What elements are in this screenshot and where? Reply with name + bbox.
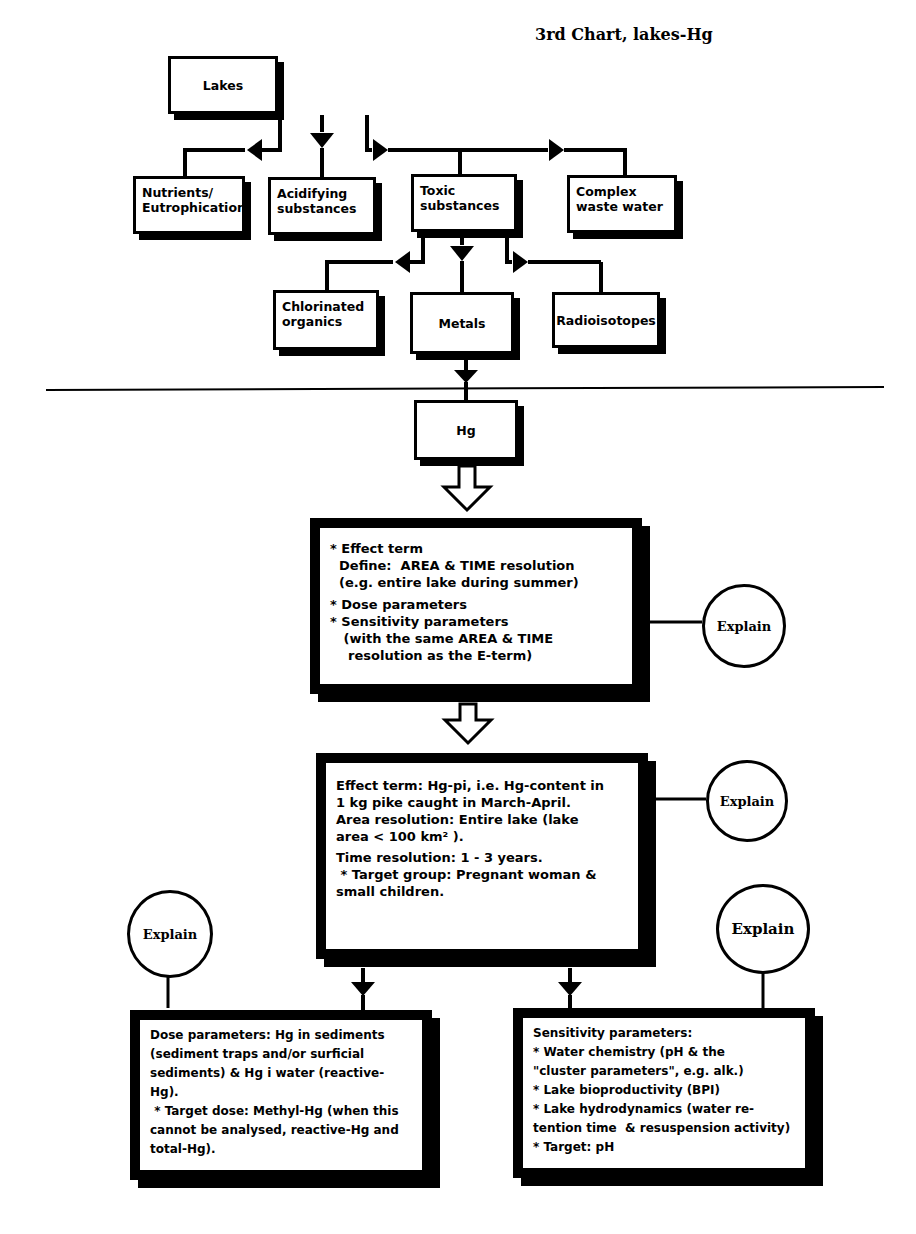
define-line: * Sensitivity parameters [330, 613, 622, 630]
node-metals[interactable]: Metals [410, 292, 514, 354]
node-hg[interactable]: Hg [414, 400, 518, 460]
dose-line: Hg). [150, 1083, 412, 1102]
explain-label: Explain [732, 920, 795, 938]
explain-label: Explain [143, 927, 198, 942]
effect-line: Time resolution: 1 - 3 years. [336, 849, 628, 866]
define-line: (with the same AREA & TIME [330, 630, 622, 647]
node-complex-waste-water[interactable]: Complex waste water [567, 175, 677, 233]
node-lakes[interactable]: Lakes [168, 56, 278, 114]
sensitivity-line: tention time & resuspension activity) [533, 1119, 795, 1138]
explain-button-effect[interactable]: Explain [706, 760, 788, 842]
node-label: Toxic substances [420, 183, 499, 213]
node-nutrients[interactable]: Nutrients/ Eutrophication [133, 176, 245, 234]
sensitivity-line: * Water chemistry (pH & the [533, 1043, 795, 1062]
dose-line: (sediment traps and/or surficial [150, 1045, 412, 1064]
effect-line: area < 100 km² ). [336, 828, 628, 845]
effect-line: 1 kg pike caught in March-April. [336, 794, 628, 811]
node-label: Metals [438, 316, 485, 331]
node-label: Hg [456, 423, 475, 438]
dose-line: sediments) & Hg i water (reactive- [150, 1064, 412, 1083]
define-box: * Effect term Define: AREA & TIME resolu… [310, 518, 642, 694]
define-line: * Dose parameters [330, 596, 622, 613]
node-chlorinated-organics[interactable]: Chlorinated organics [273, 290, 379, 350]
dose-line: total-Hg). [150, 1140, 412, 1159]
explain-button-dose[interactable]: Explain [127, 890, 213, 978]
define-line: resolution as the E-term) [330, 647, 622, 664]
sensitivity-line: * Target: pH [533, 1138, 795, 1157]
explain-label: Explain [717, 619, 772, 634]
define-line: Define: AREA & TIME resolution [330, 557, 622, 574]
node-label: Nutrients/ Eutrophication [142, 185, 246, 215]
node-label: Chlorinated organics [282, 299, 364, 329]
node-label: Complex waste water [576, 184, 663, 214]
sensitivity-line: "cluster parameters", e.g. alk.) [533, 1062, 795, 1081]
explain-button-sensitivity[interactable]: Explain [716, 884, 810, 974]
effect-line: Area resolution: Entire lake (lake [336, 811, 628, 828]
node-label: Acidifying substances [277, 186, 356, 216]
node-label: Radioisotopes [556, 313, 656, 328]
dose-line: cannot be analysed, reactive-Hg and [150, 1121, 412, 1140]
explain-label: Explain [720, 794, 775, 809]
explain-button-define[interactable]: Explain [702, 584, 786, 668]
sensitivity-line: * Lake bioproductivity (BPI) [533, 1081, 795, 1100]
define-line: * Effect term [330, 540, 622, 557]
sensitivity-parameters-box: Sensitivity parameters: * Water chemistr… [513, 1008, 815, 1178]
dose-parameters-box: Dose parameters: Hg in sediments (sedime… [130, 1010, 432, 1180]
effect-line: Effect term: Hg-pi, i.e. Hg-content in [336, 777, 628, 794]
define-line: (e.g. entire lake during summer) [330, 574, 622, 591]
effect-line: * Target group: Pregnant woman & [336, 866, 628, 883]
sensitivity-line: * Lake hydrodynamics (water re- [533, 1100, 795, 1119]
node-acidifying[interactable]: Acidifying substances [268, 177, 376, 235]
effect-box: Effect term: Hg-pi, i.e. Hg-content in 1… [316, 753, 648, 959]
dose-line: * Target dose: Methyl-Hg (when this [150, 1102, 412, 1121]
node-label: Lakes [203, 78, 243, 93]
node-radioisotopes[interactable]: Radioisotopes [552, 292, 660, 348]
sensitivity-line: Sensitivity parameters: [533, 1024, 795, 1043]
dose-line: Dose parameters: Hg in sediments [150, 1026, 412, 1045]
node-toxic[interactable]: Toxic substances [411, 174, 517, 232]
effect-line: small children. [336, 883, 628, 900]
